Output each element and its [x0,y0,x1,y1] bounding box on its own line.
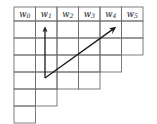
diagonal-arrow-shaft [45,28,114,78]
column-label-w1-sub: 1 [48,12,52,19]
body-column-w5 [122,21,144,55]
cell-w0-r5 [14,89,36,106]
cell-w1-r3 [36,55,58,72]
cell-w5-r2 [122,38,144,55]
column-label-w3: w3 [79,10,101,19]
cell-w2-r4 [57,72,79,89]
column-label-w3-base: w [84,9,91,19]
cell-w0-r1 [14,21,36,38]
column-label-w0-base: w [19,9,26,19]
cell-w1-r2 [36,38,58,55]
vertical-arrow [42,26,47,78]
column-label-w5: w5 [122,10,144,19]
cell-w1-r4 [36,72,58,89]
body-column-w3 [79,21,101,89]
column-label-w4-base: w [105,9,112,19]
column-label-w0-sub: 0 [27,12,31,19]
cell-w0-r4 [14,72,36,89]
arrow-layer [42,26,116,78]
column-label-w2-sub: 2 [70,12,74,19]
body-column-w0 [14,21,36,123]
cell-w2-r2 [57,38,79,55]
body-column-w1 [36,21,58,106]
cell-w4-r2 [100,38,122,55]
column-label-w1: w1 [36,10,58,19]
column-label-w5-base: w [127,9,134,19]
column-label-w4-sub: 4 [113,12,117,19]
column-label-w2: w2 [57,10,79,19]
column-label-w0: w0 [14,10,36,19]
cell-w3-r4 [79,72,101,89]
column-label-w3-sub: 3 [91,12,95,19]
diagonal-arrow [45,27,116,78]
cell-w1-r5 [36,89,58,106]
cell-w3-r3 [79,55,101,72]
column-label-w4: w4 [100,10,122,19]
cell-w2-r3 [57,55,79,72]
cell-w4-r3 [100,55,122,72]
staircase-grid-figure: w0 w1 w2 w3 w4 w5 [0,0,157,124]
cell-w0-r2 [14,38,36,55]
cell-w0-r3 [14,55,36,72]
column-label-w5-sub: 5 [134,12,138,19]
cell-w3-r1 [79,21,101,38]
cell-w5-r1 [122,21,144,38]
column-label-w1-base: w [41,9,48,19]
cell-w2-r1 [57,21,79,38]
body-column-w2 [57,21,79,89]
cell-w0-r6 [14,106,36,123]
column-label-w2-base: w [62,9,69,19]
